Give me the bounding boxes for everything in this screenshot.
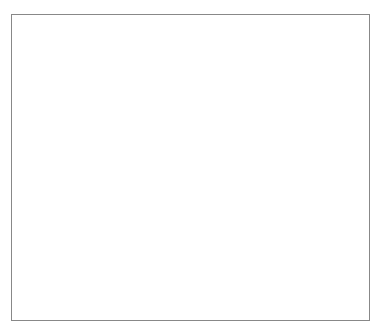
pyramid-chart (0, 0, 381, 334)
